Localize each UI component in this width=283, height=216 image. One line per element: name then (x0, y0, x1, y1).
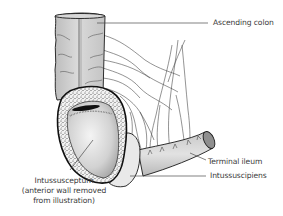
label-terminal-ileum: Terminal ileum (208, 157, 262, 167)
label-intussusceptum-line1: Intussusceptum (18, 176, 110, 186)
label-ascending-colon: Ascending colon (213, 18, 274, 28)
label-intussusceptum-line3: from illustration) (18, 196, 110, 206)
label-intussuscipiens: Intussuscipiens (210, 171, 267, 181)
terminal-ileum (138, 130, 217, 176)
label-intussusceptum: Intussusceptum (anterior wall removed fr… (18, 176, 110, 206)
intussusceptum (58, 87, 127, 183)
label-intussusceptum-line2: (anterior wall removed (18, 186, 110, 196)
intussusception-diagram: Ascending colon Terminal ileum Intussusc… (0, 0, 283, 216)
